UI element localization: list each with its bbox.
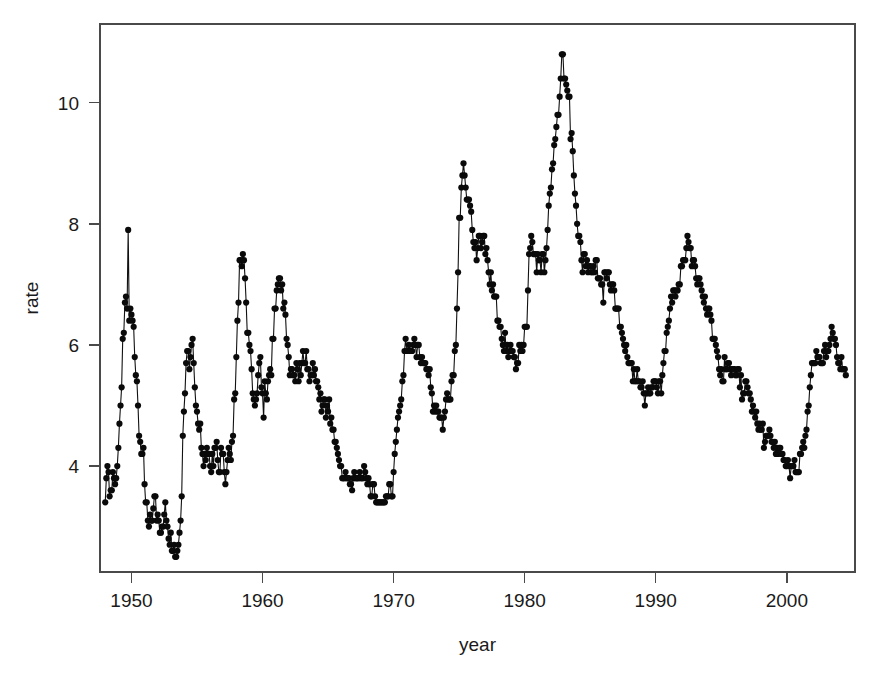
data-point (830, 330, 836, 336)
data-point (584, 257, 590, 263)
data-point (222, 481, 228, 487)
data-point (336, 457, 342, 463)
data-point (164, 523, 170, 529)
data-point (129, 318, 135, 324)
data-point (611, 287, 617, 293)
data-point (546, 203, 552, 209)
data-point (499, 336, 505, 342)
data-point (772, 439, 778, 445)
data-point (133, 372, 139, 378)
data-point (186, 366, 192, 372)
data-point (294, 366, 300, 372)
data-point (842, 366, 848, 372)
y-tick-label: 6 (68, 335, 79, 356)
data-point (540, 251, 546, 257)
data-point (182, 390, 188, 396)
data-point (582, 251, 588, 257)
data-point (311, 372, 317, 378)
data-point (759, 427, 765, 433)
data-point (744, 384, 750, 390)
data-point (362, 469, 368, 475)
data-point (351, 469, 357, 475)
data-point (119, 384, 125, 390)
data-point (623, 342, 629, 348)
data-point (543, 245, 549, 251)
data-point (564, 88, 570, 94)
data-point (721, 354, 727, 360)
data-point (312, 366, 318, 372)
data-point (787, 475, 793, 481)
data-point (752, 414, 758, 420)
data-point (479, 239, 485, 245)
data-point (283, 336, 289, 342)
data-point (560, 51, 566, 57)
data-point (102, 499, 108, 505)
axis-labels-group: 19501960197019801990200046810yearrate (21, 93, 808, 655)
data-point (249, 366, 255, 372)
data-point (713, 342, 719, 348)
data-point (240, 251, 246, 257)
data-point (823, 354, 829, 360)
data-point (192, 384, 198, 390)
data-point (524, 324, 530, 330)
data-point (701, 299, 707, 305)
data-point (521, 342, 527, 348)
data-point (422, 360, 428, 366)
data-point (128, 312, 134, 318)
data-point (175, 542, 181, 548)
data-point (667, 306, 673, 312)
data-point (833, 342, 839, 348)
data-point (677, 281, 683, 287)
data-point (806, 402, 812, 408)
data-point (618, 324, 624, 330)
data-point (717, 372, 723, 378)
data-point (691, 257, 697, 263)
data-point (666, 318, 672, 324)
data-point (808, 372, 814, 378)
data-point (448, 378, 454, 384)
data-point (210, 463, 216, 469)
data-point (197, 421, 203, 427)
data-point (183, 360, 189, 366)
data-point (502, 330, 508, 336)
data-point (551, 142, 557, 148)
data-point (512, 354, 518, 360)
data-point (762, 439, 768, 445)
data-point (162, 499, 168, 505)
data-point (760, 421, 766, 427)
data-point (812, 360, 818, 366)
data-point (241, 257, 247, 263)
data-point (226, 445, 232, 451)
data-point (548, 184, 554, 190)
data-point (281, 299, 287, 305)
data-point (416, 342, 422, 348)
data-point (525, 287, 531, 293)
data-point (463, 184, 469, 190)
data-point (263, 390, 269, 396)
data-point (433, 402, 439, 408)
data-point (696, 275, 702, 281)
data-point (400, 372, 406, 378)
data-point (657, 378, 663, 384)
data-point (600, 299, 606, 305)
data-point (158, 530, 164, 536)
data-point (258, 384, 264, 390)
data-point (198, 445, 204, 451)
data-point (267, 366, 273, 372)
data-point (552, 136, 558, 142)
scatter-line-plot: 19501960197019801990200046810yearrate (0, 0, 882, 673)
data-point (800, 439, 806, 445)
data-point (682, 257, 688, 263)
y-tick-label: 8 (68, 214, 79, 235)
data-point (152, 493, 158, 499)
data-series-group (102, 51, 849, 560)
y-tick-label: 10 (58, 93, 79, 114)
data-point (165, 536, 171, 542)
data-point (146, 523, 152, 529)
data-point (785, 457, 791, 463)
data-point (498, 324, 504, 330)
data-point (335, 451, 341, 457)
data-point (519, 348, 525, 354)
data-point (243, 299, 249, 305)
data-point (156, 517, 162, 523)
